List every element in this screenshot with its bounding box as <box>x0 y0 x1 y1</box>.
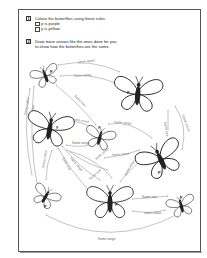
label-a17: Same wings <box>123 159 135 176</box>
label-a8: Same size <box>163 121 170 137</box>
label-a3: Same size <box>73 94 87 108</box>
label-a16: Same colour <box>112 151 131 157</box>
label-a11: Same colour <box>41 149 48 168</box>
label-a20: Same wings <box>98 237 116 241</box>
butterfly-b5[interactable] <box>133 135 189 184</box>
wing-letter-b8: y <box>180 194 183 199</box>
butterfly-diagram: same colour Same wings Same size Same co… <box>0 0 207 258</box>
label-a13: Same wings <box>69 156 83 172</box>
label-a10: Same wings <box>72 141 90 145</box>
arrow-a1 <box>58 63 120 72</box>
label-a2: Same wings <box>74 73 92 78</box>
label-a18: Same size <box>142 195 157 199</box>
label-a7: Same wings <box>114 120 132 126</box>
butterfly-b2[interactable] <box>112 74 163 112</box>
label-a15: Same size <box>88 168 102 181</box>
arrow-a20 <box>46 214 178 232</box>
label-a4: Same colour <box>23 96 30 115</box>
label-a19: same colour <box>144 211 162 215</box>
butterfly-b7[interactable] <box>87 185 134 218</box>
